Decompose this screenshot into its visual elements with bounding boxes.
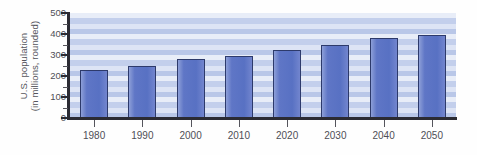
x-axis-line (67, 117, 457, 120)
bar-2010 (225, 56, 253, 118)
y-minor-tick (63, 66, 68, 67)
y-minor-tick (63, 108, 68, 109)
x-tick (432, 120, 433, 127)
x-tick (191, 120, 192, 127)
y-major-tick (61, 75, 68, 77)
y-major-tick (61, 12, 68, 14)
y-major-tick (61, 54, 68, 56)
bar-2020 (273, 50, 301, 118)
bar-2000 (177, 59, 205, 118)
bar-2030 (321, 45, 349, 118)
bar-2050 (418, 35, 446, 118)
bars-layer (70, 13, 456, 118)
bar-1980 (80, 70, 108, 118)
x-tick-label: 2040 (362, 130, 406, 142)
y-major-tick (61, 96, 68, 98)
y-minor-tick (63, 87, 68, 88)
x-tick (384, 120, 385, 127)
x-tick-label: 1980 (72, 130, 116, 142)
x-tick-label: 2050 (410, 130, 454, 142)
y-minor-tick (63, 24, 68, 25)
bar-chart-figure: U.S. population (in millions, rounded) 5… (0, 0, 477, 155)
x-tick (142, 120, 143, 127)
bar-2040 (370, 38, 398, 118)
x-tick-label: 1990 (120, 130, 164, 142)
y-major-tick (61, 33, 68, 35)
x-tick (287, 120, 288, 127)
x-tick (239, 120, 240, 127)
y-minor-tick (63, 45, 68, 46)
x-tick-label: 2010 (217, 130, 261, 142)
bar-1990 (128, 66, 156, 118)
x-tick-label: 2030 (313, 130, 357, 142)
x-tick-label: 2020 (265, 130, 309, 142)
x-tick (94, 120, 95, 127)
plot-area (70, 13, 456, 118)
x-tick (335, 120, 336, 127)
x-tick-label: 2000 (169, 130, 213, 142)
y-major-tick (61, 117, 68, 119)
